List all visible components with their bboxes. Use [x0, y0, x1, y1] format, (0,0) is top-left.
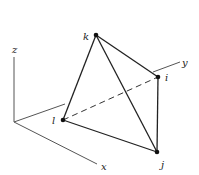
- node-i: [156, 75, 161, 80]
- y-axis-label: y: [181, 57, 188, 68]
- edge-k-i: [96, 35, 158, 77]
- y-axis-segment-far: [153, 62, 180, 72]
- x-axis-label: x: [101, 161, 107, 172]
- node-j-label: j: [159, 159, 164, 170]
- node-k-label: k: [83, 31, 89, 42]
- node-i-label: i: [165, 72, 168, 83]
- x-axis: [14, 122, 97, 164]
- node-k: [94, 33, 99, 38]
- node-l: [61, 118, 66, 123]
- edge-i-j: [157, 77, 158, 152]
- tetrahedron-diagram: z x y k i l j: [0, 0, 199, 175]
- z-axis-label: z: [11, 44, 18, 55]
- node-j: [155, 150, 160, 155]
- node-l-label: l: [52, 115, 55, 126]
- y-axis-segment-near: [14, 104, 65, 122]
